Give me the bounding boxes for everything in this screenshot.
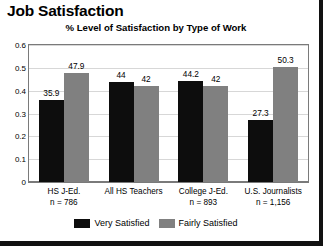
bar-very-satisfied: [178, 81, 203, 182]
x-axis-category: College J-Ed.n = 893: [179, 186, 228, 208]
bar-very-satisfied: [248, 120, 273, 182]
legend-label: Very Satisfied: [94, 218, 149, 228]
category-sample-size: n = 1,156: [244, 197, 301, 208]
y-axis-tick-label: 0.2: [2, 132, 26, 141]
chart-screenshot: Job Satisfaction % Level of Satisfaction…: [0, 0, 323, 246]
bar-value-label: 42: [142, 74, 151, 84]
bar-fairly-satisfied: [203, 86, 228, 182]
category-sample-size: n = 786: [47, 197, 80, 208]
y-axis-tick-label: 0.4: [2, 86, 26, 95]
bars-layer: 35.947.9444244.24227.350.3: [29, 45, 308, 182]
legend-swatch-icon: [74, 219, 90, 228]
bar-value-label: 42: [211, 74, 220, 84]
bar-fairly-satisfied: [64, 73, 89, 182]
category-name: HS J-Ed.: [47, 186, 80, 197]
bar-value-label: 27.3: [253, 108, 269, 118]
legend-swatch-icon: [159, 219, 175, 228]
x-axis-labels: HS J-Ed.n = 786All HS TeachersCollege J-…: [29, 186, 308, 212]
x-axis-category: HS J-Ed.n = 786: [47, 186, 80, 208]
bar-value-label: 47.9: [68, 61, 84, 71]
bar-value-label: 44.2: [183, 69, 199, 79]
bar-value-label: 44: [117, 70, 126, 80]
legend-entry: Fairly Satisfied: [159, 218, 238, 228]
x-axis-category: All HS Teachers: [105, 186, 163, 197]
legend-entry: Very Satisfied: [74, 218, 149, 228]
x-axis-category: U.S. Journalistsn = 1,156: [244, 186, 301, 208]
y-axis-tick-label: 0.5: [2, 63, 26, 72]
category-name: College J-Ed.: [179, 186, 228, 197]
chart-subtitle: % Level of Satisfaction by Type of Work: [0, 22, 312, 33]
y-axis-tick-label: 0.1: [2, 155, 26, 164]
y-axis-tick-label: 0: [2, 178, 26, 187]
bar-value-label: 35.9: [43, 88, 59, 98]
bar-very-satisfied: [109, 82, 134, 182]
bar-fairly-satisfied: [134, 86, 159, 182]
legend-label: Fairly Satisfied: [179, 218, 238, 228]
bar-value-label: 50.3: [278, 55, 294, 65]
chart-legend: Very SatisfiedFairly Satisfied: [0, 218, 312, 228]
category-name: U.S. Journalists: [244, 186, 301, 197]
y-axis-tick-label: 0.6: [2, 41, 26, 50]
page-title: Job Satisfaction: [7, 2, 124, 20]
category-sample-size: n = 893: [179, 197, 228, 208]
bar-fairly-satisfied: [273, 67, 298, 182]
category-name: All HS Teachers: [105, 186, 163, 197]
bar-very-satisfied: [39, 100, 64, 182]
y-axis-tick-label: 0.3: [2, 109, 26, 118]
y-axis: 0.60.50.40.30.20.10: [0, 44, 26, 184]
